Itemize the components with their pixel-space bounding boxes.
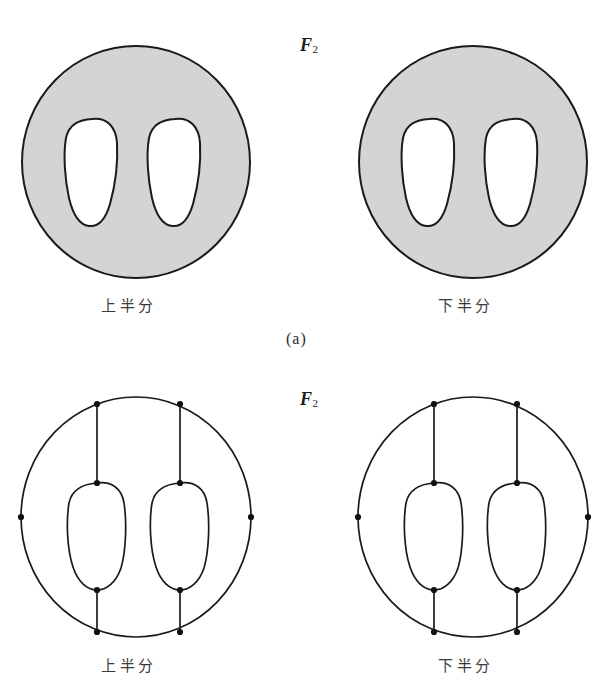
label-lower-half-a: 下半分 (438, 299, 494, 314)
label-upper-half-b: 上半分 (101, 659, 157, 674)
vertex (94, 629, 100, 635)
vertex (177, 401, 183, 407)
f2-base: F (300, 389, 312, 409)
panel-b-center-label-f2: F2 (300, 390, 318, 409)
label-lower-half-b: 下半分 (438, 659, 494, 674)
vertex (514, 629, 520, 635)
vertex (514, 401, 520, 407)
vertex (18, 514, 24, 520)
vertex (177, 587, 183, 593)
vertex (514, 480, 520, 486)
vertex (94, 587, 100, 593)
f2-base: F (300, 35, 312, 55)
vertex (431, 401, 437, 407)
vertex (177, 629, 183, 635)
label-upper-half-a: 上半分 (101, 299, 157, 314)
vertex (431, 480, 437, 486)
vertex (94, 401, 100, 407)
vertex (177, 480, 183, 486)
f2-subscript: 2 (313, 397, 319, 409)
vertex (514, 587, 520, 593)
vertex (248, 514, 254, 520)
panel-a-caption: (a) (286, 331, 307, 347)
vertex (431, 629, 437, 635)
vertex (94, 480, 100, 486)
vertex (431, 587, 437, 593)
vertex (355, 514, 361, 520)
vertex (585, 514, 591, 520)
figure-root: F2 上半分 下半分 (a) F2 上半分 下半分 (0, 0, 611, 696)
panel-a-center-label-f2: F2 (300, 36, 318, 55)
figure-canvas (0, 0, 611, 696)
f2-subscript: 2 (313, 43, 319, 55)
